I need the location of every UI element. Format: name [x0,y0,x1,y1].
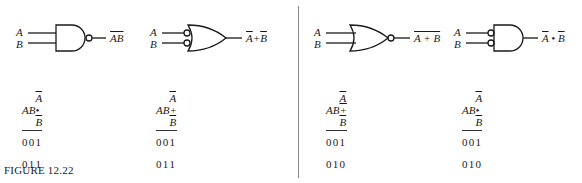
column-header-output: A + B [339,92,346,131]
input-b-label: B [16,39,23,50]
and-inverted-inputs-gate-icon [466,22,546,56]
column-header-output: A + B [169,92,176,131]
table-row: 001 [326,131,347,154]
nor-truth-table: A B A + B 001 010 100 110 [326,92,347,183]
table-row: 001 [22,131,42,154]
input-a-label: A [454,27,461,38]
figure-caption: FIGURE 12.22 [4,164,74,176]
table-row: 010 [326,153,347,175]
panel-divider [298,6,299,178]
column-header-a: A [22,92,29,131]
nand-output-label: AB [110,32,123,44]
table-row: 100 [326,175,347,183]
input-a-label: A [16,27,23,38]
input-b-label: B [150,39,157,50]
table-header-row: A B A • B [462,92,482,131]
nor-output-label: A + B [414,32,440,44]
column-header-a: A [326,92,333,131]
table-header-row: A B A • B [22,92,42,131]
table-row: 001 [462,131,482,154]
nor-gate-icon [326,22,412,56]
table-row: 101 [22,175,42,183]
column-header-output: A • B [475,92,482,131]
or-inverted-truth-table: A B A + B 001 011 101 110 [156,92,177,183]
and-inverted-truth-table: A B A • B 001 010 100 110 [462,92,482,183]
or-inverted-inputs-gate-icon [162,22,244,56]
and-inverted-output-label: A • B [542,32,565,44]
column-header-output: A • B [35,92,42,131]
column-header-a: A [156,92,163,131]
table-row: 011 [156,153,177,175]
input-b-label: B [454,39,461,50]
input-a-label: A [314,27,321,38]
column-header-a: A [462,92,469,131]
table-row: 010 [462,153,482,175]
table-row: 101 [156,175,177,183]
or-inverted-output-label: A+B [246,32,267,44]
table-header-row: A B A + B [156,92,177,131]
table-row: 100 [462,175,482,183]
input-a-label: A [150,27,157,38]
table-header-row: A B A + B [326,92,347,131]
table-row: 001 [156,131,177,154]
input-b-label: B [314,39,321,50]
nand-gate-icon [28,22,108,56]
